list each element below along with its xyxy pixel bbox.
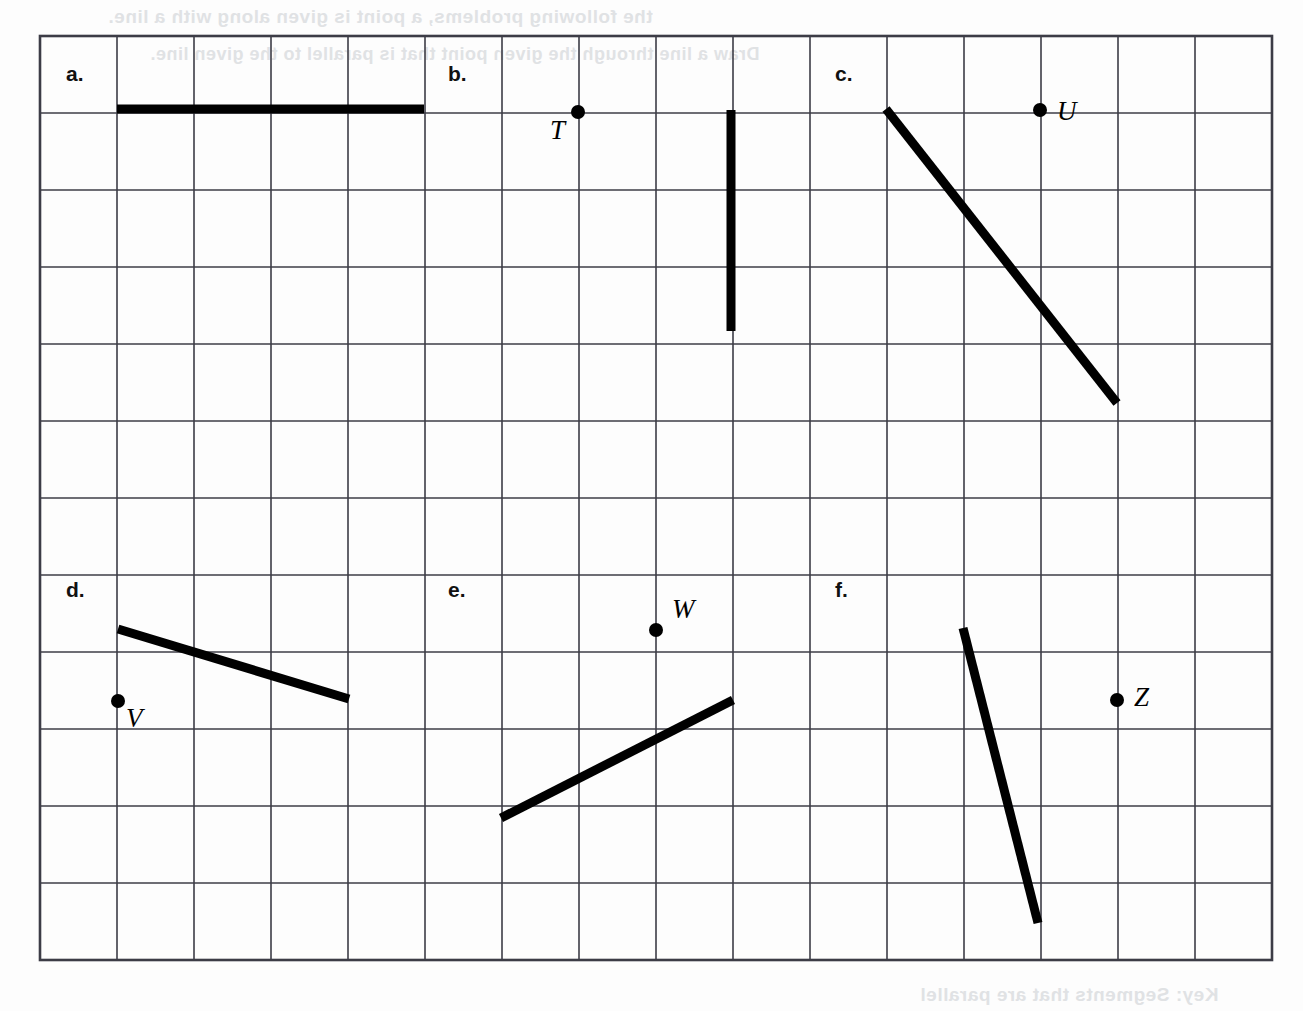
line-segment-d: [118, 629, 349, 699]
grid-lines: [40, 36, 1272, 960]
point-dot-c: [1033, 103, 1047, 117]
problem-label-e: e.: [448, 578, 466, 602]
point-label-w: W: [672, 594, 695, 625]
point-dot-d: [111, 694, 125, 708]
figure-layer: [111, 103, 1124, 923]
point-label-v: V: [126, 703, 143, 734]
problem-label-f: f.: [835, 578, 848, 602]
line-segment-c: [886, 109, 1117, 403]
line-segment-e: [501, 700, 733, 818]
worksheet-page: the following problems, a point is given…: [0, 0, 1303, 1011]
point-dot-e: [649, 623, 663, 637]
problem-label-c: c.: [835, 62, 853, 86]
problem-label-a: a.: [66, 62, 84, 86]
point-dot-b: [571, 105, 585, 119]
geometry-grid-diagram: [0, 0, 1303, 1011]
point-dot-f: [1110, 693, 1124, 707]
point-label-t: T: [550, 115, 565, 146]
point-label-u: U: [1057, 96, 1077, 127]
point-label-z: Z: [1134, 682, 1149, 713]
problem-label-b: b.: [448, 62, 467, 86]
line-segment-f: [963, 628, 1038, 923]
problem-label-d: d.: [66, 578, 85, 602]
